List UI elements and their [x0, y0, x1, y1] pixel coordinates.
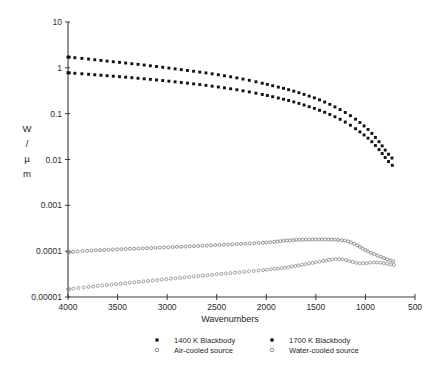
- data-marker: [363, 134, 366, 137]
- data-marker: [292, 90, 295, 93]
- data-marker: [100, 74, 103, 77]
- data-marker: [68, 71, 71, 74]
- y-axis-title-line: W: [23, 123, 32, 134]
- data-marker: [367, 128, 370, 131]
- data-marker: [378, 148, 381, 151]
- data-marker: [80, 72, 83, 75]
- y-tick-label: 0.00001: [31, 292, 62, 302]
- data-marker: [254, 92, 257, 95]
- data-marker: [282, 98, 285, 101]
- data-marker: [354, 118, 357, 121]
- data-marker: [118, 61, 121, 64]
- data-marker: [186, 69, 189, 72]
- chart-svg: 1010.10.010.0010.00010.00001 40003500300…: [0, 0, 448, 369]
- data-marker: [186, 82, 189, 85]
- data-marker: [167, 80, 170, 83]
- y-tick-label: 1: [57, 63, 62, 73]
- data-marker: [223, 74, 226, 77]
- data-marker: [308, 95, 311, 98]
- data-marker: [87, 58, 90, 61]
- data-marker: [323, 111, 326, 114]
- data-marker: [308, 105, 311, 108]
- data-marker: [313, 107, 316, 110]
- data-marker: [106, 60, 109, 63]
- data-marker: [349, 114, 352, 117]
- data-marker: [112, 60, 115, 63]
- x-tick-label: 4000: [59, 302, 78, 312]
- data-marker: [198, 83, 201, 86]
- data-marker: [384, 156, 387, 159]
- data-marker: [93, 58, 96, 61]
- data-marker: [387, 153, 390, 156]
- x-tick-label: 1500: [306, 302, 325, 312]
- data-marker: [217, 86, 220, 89]
- data-marker: [370, 140, 373, 143]
- data-marker: [161, 79, 164, 82]
- data-marker: [381, 152, 384, 155]
- data-marker: [149, 64, 152, 67]
- data-marker: [354, 127, 357, 130]
- data-marker: [374, 136, 377, 139]
- y-axis-title-line: µ: [24, 153, 30, 164]
- data-marker: [205, 71, 208, 74]
- data-marker: [303, 93, 306, 96]
- data-marker: [266, 83, 269, 86]
- data-marker: [318, 109, 321, 112]
- data-marker: [334, 105, 337, 108]
- data-marker: [229, 87, 232, 90]
- data-marker: [358, 130, 361, 133]
- data-marker: [254, 80, 257, 83]
- y-axis-title-line: /: [26, 138, 29, 149]
- data-marker: [80, 57, 83, 60]
- data-marker: [277, 86, 280, 89]
- data-marker: [155, 65, 158, 68]
- data-marker: [277, 97, 280, 100]
- data-marker: [180, 81, 183, 84]
- data-marker: [297, 91, 300, 94]
- legend-entry-label: Water-cooled source: [289, 346, 359, 355]
- data-marker: [339, 108, 342, 111]
- data-marker: [271, 95, 274, 98]
- chart-figure: 1010.10.010.0010.00010.00001 40003500300…: [0, 0, 448, 369]
- data-marker: [124, 62, 127, 65]
- data-marker: [205, 84, 208, 87]
- data-marker: [235, 88, 238, 91]
- data-marker: [287, 99, 290, 102]
- y-tick-label: 0.1: [50, 109, 62, 119]
- data-marker: [367, 137, 370, 140]
- y-tick-label: 0.001: [41, 200, 63, 210]
- data-marker: [124, 76, 127, 79]
- data-marker: [303, 104, 306, 107]
- data-marker: [223, 86, 226, 89]
- data-marker: [381, 144, 384, 147]
- data-marker: [174, 67, 177, 70]
- data-marker: [248, 79, 251, 82]
- data-marker: [261, 82, 264, 85]
- data-marker: [292, 100, 295, 103]
- data-marker: [248, 90, 251, 93]
- data-marker: [266, 94, 269, 97]
- data-marker: [161, 66, 164, 69]
- data-marker: [358, 121, 361, 124]
- y-axis-title-line: m: [23, 168, 31, 179]
- data-marker: [287, 88, 290, 91]
- legend-entry-label: Air-cooled source: [174, 346, 233, 355]
- data-marker: [387, 160, 390, 163]
- y-tick-label: 0.01: [45, 155, 62, 165]
- data-marker: [217, 73, 220, 76]
- data-marker: [211, 85, 214, 88]
- data-marker: [211, 72, 214, 75]
- data-marker: [155, 79, 158, 82]
- data-marker: [143, 64, 146, 67]
- data-marker: [192, 82, 195, 85]
- data-marker: [344, 121, 347, 124]
- y-tick-label: 0.0001: [36, 246, 62, 256]
- data-marker: [391, 157, 394, 160]
- x-tick-label: 2000: [257, 302, 276, 312]
- data-marker: [149, 78, 152, 81]
- legend-entry-label: 1400 K Blackbody: [174, 336, 235, 345]
- data-marker: [242, 89, 245, 92]
- data-marker: [118, 75, 121, 78]
- legend-filled-square-icon: [155, 338, 158, 341]
- data-marker: [374, 144, 377, 147]
